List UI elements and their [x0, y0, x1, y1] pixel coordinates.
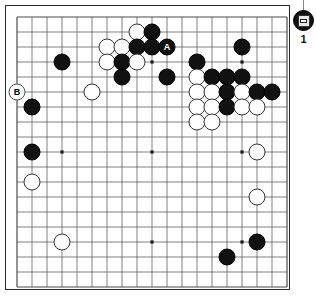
stone-black[interactable]: [54, 54, 71, 71]
side-panel: 1: [292, 0, 316, 60]
stone-white[interactable]: [249, 189, 266, 206]
stone-black[interactable]: [249, 234, 266, 251]
board-tool-icon[interactable]: [293, 10, 314, 31]
stone-black[interactable]: [219, 249, 236, 266]
stone-white[interactable]: [129, 54, 146, 71]
stone-black[interactable]: [234, 39, 251, 56]
go-board[interactable]: AB: [5, 5, 290, 290]
stone-white[interactable]: [54, 234, 71, 251]
stone-label: A: [160, 40, 175, 55]
move-number-label: 1: [292, 33, 315, 45]
stone-white[interactable]: [24, 174, 41, 191]
board-marker[interactable]: B: [9, 84, 26, 101]
stone-black[interactable]: [159, 69, 176, 86]
stone-white[interactable]: [204, 114, 221, 131]
go-problem-screen: AB 1: [0, 0, 316, 306]
board-tool-glyph: [298, 15, 310, 27]
stone-black[interactable]: [264, 84, 281, 101]
stone-white[interactable]: [84, 84, 101, 101]
stone-black[interactable]: [24, 99, 41, 116]
stone-white[interactable]: [249, 99, 266, 116]
stone-black[interactable]: [24, 144, 41, 161]
stone-black[interactable]: A: [159, 39, 176, 56]
stone-white[interactable]: [249, 144, 266, 161]
board-tool-glyph-inner: [300, 19, 307, 23]
stone-black[interactable]: [114, 69, 131, 86]
